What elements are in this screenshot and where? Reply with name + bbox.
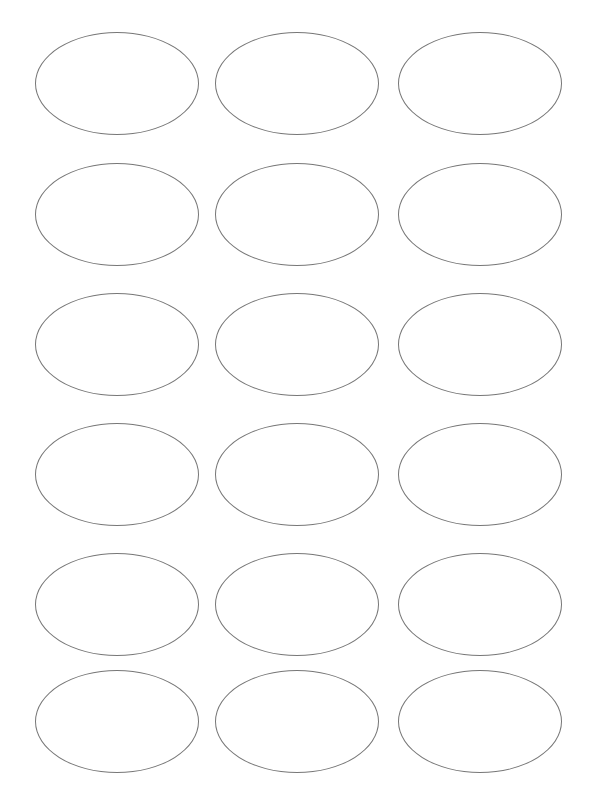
- oval-label[interactable]: [398, 553, 562, 656]
- oval-label[interactable]: [215, 670, 379, 773]
- oval-label[interactable]: [35, 163, 199, 266]
- oval-label[interactable]: [398, 32, 562, 135]
- oval-label[interactable]: [35, 293, 199, 396]
- oval-label[interactable]: [398, 423, 562, 526]
- oval-label[interactable]: [398, 293, 562, 396]
- label-sheet-page: [0, 0, 598, 810]
- oval-label[interactable]: [215, 163, 379, 266]
- oval-label[interactable]: [398, 670, 562, 773]
- oval-label[interactable]: [398, 163, 562, 266]
- oval-label[interactable]: [35, 553, 199, 656]
- oval-label[interactable]: [215, 293, 379, 396]
- oval-label[interactable]: [215, 423, 379, 526]
- oval-label[interactable]: [215, 32, 379, 135]
- oval-label[interactable]: [35, 423, 199, 526]
- label-grid: [0, 0, 598, 810]
- oval-label[interactable]: [35, 670, 199, 773]
- oval-label[interactable]: [215, 553, 379, 656]
- oval-label[interactable]: [35, 32, 199, 135]
